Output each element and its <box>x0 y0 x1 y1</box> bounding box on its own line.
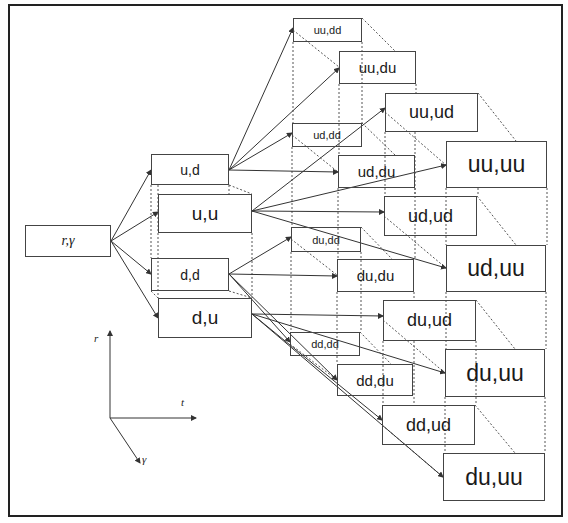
node-l2-dd-ud: dd,ud <box>382 405 475 445</box>
node-label: u,d <box>180 162 199 178</box>
node-l2-du-dd: du,dd <box>291 227 361 252</box>
node-l1-du: d,u <box>158 298 252 338</box>
node-label: uu,dd <box>314 24 342 36</box>
node-l2-ud-du: ud,du <box>338 155 415 188</box>
node-label: uu,uu <box>468 151 526 178</box>
node-l2-dd-dd: dd,dd <box>290 332 360 356</box>
node-l2-du-ud: du,ud <box>383 300 476 341</box>
node-label: du,ud <box>407 310 452 331</box>
node-label: ud,dd <box>313 129 341 141</box>
node-l2-du-du: du,du <box>337 259 414 292</box>
node-label: r,γ <box>62 233 75 249</box>
node-label: ud,uu <box>467 255 525 282</box>
root-arrows <box>111 170 158 318</box>
node-label: uu,ud <box>409 102 454 123</box>
axis-label-r: r <box>94 332 98 344</box>
node-l2-ud-ud: ud,ud <box>384 196 477 236</box>
node-l2-uu-dd: uu,dd <box>293 18 362 42</box>
node-label: uu,du <box>359 59 397 76</box>
node-l2-uu-uu: uu,uu <box>446 141 547 188</box>
node-label: u,u <box>192 203 218 225</box>
node-label: ud,ud <box>408 206 453 227</box>
node-l2-uu-ud: uu,ud <box>385 93 478 132</box>
node-label: du,uu <box>465 464 523 491</box>
node-l2-ud-uu: ud,uu <box>446 245 546 292</box>
node-l1-dd: d,d <box>151 258 229 291</box>
node-root: r,γ <box>25 225 111 257</box>
node-label: dd,du <box>356 372 394 389</box>
node-label: dd,ud <box>406 415 451 436</box>
node-l1-ud: u,d <box>151 154 229 185</box>
node-l2-ud-dd: ud,dd <box>292 123 362 147</box>
node-l2-du-uu: du,uu <box>445 349 545 397</box>
node-label: dd,dd <box>311 338 339 350</box>
ud-arrows <box>229 28 339 172</box>
node-label: du,du <box>357 267 395 284</box>
node-label: du,uu <box>466 360 524 387</box>
node-label: d,d <box>180 267 199 283</box>
node-label: ud,du <box>358 163 396 180</box>
axis-label-t: t <box>181 396 184 408</box>
node-l2-dd-du: dd,du <box>337 364 413 396</box>
node-l2-uu-du: uu,du <box>339 51 416 84</box>
node-label: d,u <box>192 307 218 329</box>
node-l1-uu: u,u <box>158 194 252 233</box>
node-label: du,dd <box>312 234 340 246</box>
axis-label-gamma: γ <box>142 453 146 465</box>
node-l2-dd-uu: du,uu <box>443 453 545 501</box>
